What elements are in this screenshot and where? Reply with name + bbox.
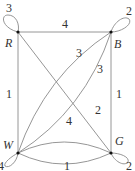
weight-w-g-upper: 4 — [66, 114, 72, 128]
loop-weight-b: 2 — [126, 4, 132, 18]
vertex-w — [16, 151, 19, 154]
loop-w — [5, 153, 18, 167]
loop-b — [111, 18, 130, 32]
vertex-b — [109, 30, 112, 33]
weight-r-g: 2 — [95, 103, 101, 117]
weight-r-b: 4 — [62, 17, 68, 31]
loop-r — [3, 15, 18, 32]
vertex-label-g: G — [115, 134, 124, 148]
graph-diagram: R B W G 3 2 4 2 4 1 1 2 3 3 4 1 — [0, 0, 135, 171]
vertex-g — [109, 151, 112, 154]
weight-b-g: 1 — [116, 87, 122, 101]
weight-w-b-upper: 3 — [76, 46, 82, 60]
vertex-label-b: B — [114, 37, 122, 51]
edge-r-g — [18, 32, 111, 153]
weight-r-w: 1 — [6, 87, 12, 101]
loop-weight-r: 3 — [6, 1, 12, 15]
vertex-label-w: W — [3, 138, 14, 152]
vertex-label-r: R — [4, 36, 13, 50]
vertex-r — [16, 30, 19, 33]
weight-w-g-lower: 1 — [64, 159, 70, 171]
weight-w-b-lower: 3 — [97, 62, 103, 76]
loop-weight-g: 2 — [126, 159, 132, 171]
loop-weight-w: 4 — [0, 159, 4, 171]
